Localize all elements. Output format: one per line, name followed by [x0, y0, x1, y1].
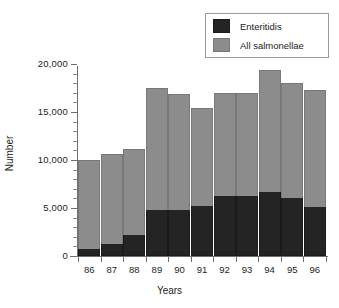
x-tick-label: 96 — [300, 264, 330, 275]
y-tick-minor — [73, 74, 77, 75]
bar-stack — [214, 93, 236, 256]
bar-segment-enteritidis — [101, 244, 123, 256]
x-tick — [101, 257, 102, 262]
chart-legend: Enteritidis All salmonellae — [205, 13, 329, 58]
bar-segment-all-salmonellae — [123, 149, 145, 235]
bar-segment-all-salmonellae — [146, 88, 168, 210]
y-tick-minor — [73, 189, 77, 190]
bar-segment-all-salmonellae — [168, 94, 190, 210]
bar-segment-enteritidis — [281, 198, 303, 256]
y-tick-minor — [73, 246, 77, 247]
bar-segment-all-salmonellae — [304, 90, 326, 207]
bar-segment-enteritidis — [191, 206, 213, 256]
bar-segment-enteritidis — [78, 249, 100, 256]
y-tick-major — [71, 208, 77, 209]
x-tick — [168, 257, 169, 262]
x-tick — [213, 257, 214, 262]
y-tick-label: 20,000 — [8, 58, 68, 69]
y-tick-minor — [73, 198, 77, 199]
x-tick — [303, 257, 304, 262]
plot-area — [78, 64, 326, 256]
legend-swatch-icon-all-salmonellae — [213, 38, 230, 52]
y-tick-minor — [73, 93, 77, 94]
x-tick — [123, 257, 124, 262]
bar-segment-all-salmonellae — [259, 70, 281, 192]
y-tick-minor — [73, 218, 77, 219]
y-tick-minor — [73, 170, 77, 171]
bar-stack — [304, 90, 326, 256]
x-tick — [146, 257, 147, 262]
legend-label-all-salmonellae: All salmonellae — [240, 40, 304, 51]
bar-segment-all-salmonellae — [101, 154, 123, 244]
bar-stack — [101, 154, 123, 256]
bar-stack — [191, 108, 213, 256]
bar-segment-enteritidis — [123, 235, 145, 256]
chart-figure: Number 05,00010,00015,00020,000 86878889… — [0, 0, 339, 308]
legend-item-all-salmonellae: All salmonellae — [213, 38, 304, 52]
y-tick-minor — [73, 102, 77, 103]
bar-segment-all-salmonellae — [236, 93, 258, 197]
bar-stack — [146, 88, 168, 256]
bar-segment-all-salmonellae — [281, 83, 303, 198]
x-tick — [78, 257, 79, 262]
x-tick — [191, 257, 192, 262]
bar-stack — [259, 70, 281, 256]
y-tick-label: 10,000 — [8, 154, 68, 165]
bar-stack — [78, 160, 100, 256]
bar-segment-enteritidis — [168, 210, 190, 256]
bar-stack — [168, 94, 190, 256]
bar-stack — [236, 93, 258, 256]
legend-label-enteritidis: Enteritidis — [240, 21, 282, 32]
y-tick-minor — [73, 227, 77, 228]
bar-segment-all-salmonellae — [78, 160, 100, 249]
y-tick-major — [71, 112, 77, 113]
x-tick — [326, 257, 327, 262]
y-tick-major — [71, 160, 77, 161]
y-tick-minor — [73, 122, 77, 123]
y-tick-minor — [73, 83, 77, 84]
legend-swatch-icon-enteritidis — [213, 19, 230, 33]
bar-segment-enteritidis — [214, 196, 236, 256]
y-tick-minor — [73, 150, 77, 151]
legend-item-enteritidis: Enteritidis — [213, 19, 282, 33]
y-tick-minor — [73, 179, 77, 180]
bar-segment-enteritidis — [304, 207, 326, 256]
y-tick-major — [71, 64, 77, 65]
y-tick-minor — [73, 237, 77, 238]
y-tick-minor — [73, 131, 77, 132]
x-axis-title: Years — [0, 285, 339, 296]
x-axis-line — [70, 256, 328, 257]
x-tick — [258, 257, 259, 262]
bar-segment-enteritidis — [236, 196, 258, 256]
bar-stack — [123, 148, 145, 256]
y-tick-minor — [73, 141, 77, 142]
y-tick-major — [71, 256, 77, 257]
bar-segment-enteritidis — [259, 192, 281, 256]
x-tick — [281, 257, 282, 262]
y-tick-label: 0 — [8, 250, 68, 261]
y-tick-label: 5,000 — [8, 202, 68, 213]
bar-segment-all-salmonellae — [191, 108, 213, 206]
bar-stack — [281, 83, 303, 256]
bar-segment-all-salmonellae — [214, 93, 236, 197]
x-tick — [236, 257, 237, 262]
y-tick-label: 15,000 — [8, 106, 68, 117]
bar-segment-enteritidis — [146, 210, 168, 256]
